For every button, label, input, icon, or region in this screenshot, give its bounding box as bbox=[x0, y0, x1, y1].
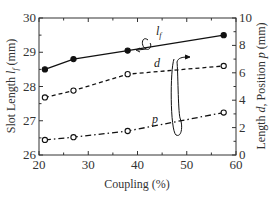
data-point-d bbox=[42, 95, 47, 100]
right-y-axis-ticks: 0246810 bbox=[232, 10, 252, 162]
data-point-d bbox=[71, 88, 76, 93]
data-point-p bbox=[125, 128, 130, 133]
plot-frame bbox=[39, 18, 236, 155]
left-y-axis-ticks: 2627282930 bbox=[23, 10, 43, 162]
series-label-lf: lf bbox=[156, 24, 163, 40]
x-axis-ticks: 2030405060 bbox=[33, 18, 243, 172]
data-point-d bbox=[221, 63, 226, 68]
data-point-p bbox=[221, 110, 226, 115]
left-y-axis-label: Slot Length lf (mm) bbox=[4, 39, 20, 134]
data-point-lf bbox=[42, 67, 47, 72]
data-series bbox=[42, 33, 226, 143]
left-y-tick-label: 27 bbox=[23, 113, 37, 128]
chart: 2030405060 2627282930 0246810 Coupling (… bbox=[0, 0, 275, 197]
right-y-tick-label: 0 bbox=[239, 147, 246, 162]
x-tick-label: 40 bbox=[131, 157, 144, 172]
data-point-d bbox=[125, 72, 130, 77]
right-y-tick-label: 4 bbox=[239, 92, 246, 107]
data-point-lf bbox=[221, 33, 226, 38]
left-y-tick-label: 30 bbox=[23, 10, 36, 25]
right-y-tick-label: 2 bbox=[239, 120, 246, 135]
left-y-tick-label: 29 bbox=[23, 44, 36, 59]
series-label-p: p bbox=[151, 112, 158, 126]
series-label-d: d bbox=[154, 56, 161, 70]
data-point-p bbox=[42, 137, 47, 142]
x-axis-label: Coupling (%) bbox=[104, 177, 170, 191]
right-y-tick-label: 10 bbox=[239, 10, 252, 25]
left-y-tick-label: 26 bbox=[23, 147, 37, 162]
data-point-p bbox=[71, 135, 76, 140]
right-y-axis-label: Length d, Position p (mm) bbox=[254, 22, 268, 149]
x-tick-label: 30 bbox=[82, 157, 95, 172]
series-line-lf bbox=[45, 35, 224, 69]
x-tick-label: 50 bbox=[180, 157, 193, 172]
left-y-tick-label: 28 bbox=[23, 79, 36, 94]
data-point-lf bbox=[71, 57, 76, 62]
d-arrowhead-icon bbox=[185, 55, 190, 59]
right-y-tick-label: 6 bbox=[239, 65, 246, 80]
axes-frame bbox=[39, 18, 236, 155]
right-y-tick-label: 8 bbox=[239, 37, 246, 52]
data-point-lf bbox=[125, 48, 130, 53]
